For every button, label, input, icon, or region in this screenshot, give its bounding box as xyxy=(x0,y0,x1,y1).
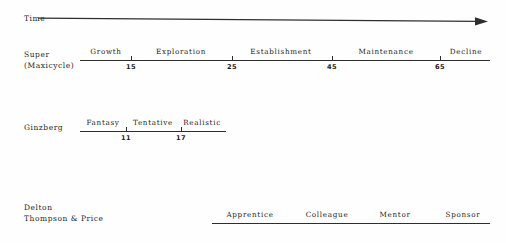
dalton-baseline xyxy=(212,223,490,224)
stage-ginzberg-fantasy: Fantasy xyxy=(86,118,119,127)
stage-dalton-sponsor: Sponsor xyxy=(446,210,481,219)
stage-super-growth: Growth xyxy=(90,47,121,56)
row-label-dalton-line2: Thompson & Price xyxy=(24,214,103,225)
tick-label-ginzberg-11: 11 xyxy=(121,134,131,142)
row-label-dalton-line1: Delton xyxy=(24,203,103,214)
stage-dalton-apprentice: Apprentice xyxy=(226,210,273,219)
row-label-super-line2: (Maxicycle) xyxy=(24,61,74,72)
stage-dalton-mentor: Mentor xyxy=(379,210,410,219)
stage-super-decline: Decline xyxy=(450,47,482,56)
stage-super-establishment: Establishment xyxy=(250,47,311,56)
tick-super-15 xyxy=(131,56,132,61)
stage-ginzberg-realistic: Realistic xyxy=(183,118,221,127)
tick-super-65 xyxy=(440,56,441,61)
stage-ginzberg-tentative: Tentative xyxy=(133,118,173,127)
tick-label-ginzberg-17: 17 xyxy=(176,134,186,142)
tick-ginzberg-11 xyxy=(126,127,127,132)
super-baseline xyxy=(80,60,490,61)
tick-label-super-65: 65 xyxy=(435,63,445,71)
row-label-super-line1: Super xyxy=(24,50,74,61)
tick-label-super-45: 45 xyxy=(327,63,337,71)
tick-label-super-15: 15 xyxy=(126,63,136,71)
tick-label-super-25: 25 xyxy=(227,63,237,71)
tick-ginzberg-17 xyxy=(181,127,182,132)
ginzberg-baseline xyxy=(80,131,226,132)
tick-super-25 xyxy=(232,56,233,61)
row-label-super: Super (Maxicycle) xyxy=(24,50,74,71)
tick-super-45 xyxy=(332,56,333,61)
stage-super-maintenance: Maintenance xyxy=(358,47,413,56)
career-stage-figure: Time Super (Maxicycle) Growth Exploratio… xyxy=(0,0,506,243)
time-axis-arrow xyxy=(38,14,488,26)
row-label-ginzberg: Ginzberg xyxy=(24,123,63,133)
stage-super-exploration: Exploration xyxy=(156,47,206,56)
row-label-dalton: Delton Thompson & Price xyxy=(24,203,103,224)
stage-dalton-colleague: Colleague xyxy=(306,210,349,219)
